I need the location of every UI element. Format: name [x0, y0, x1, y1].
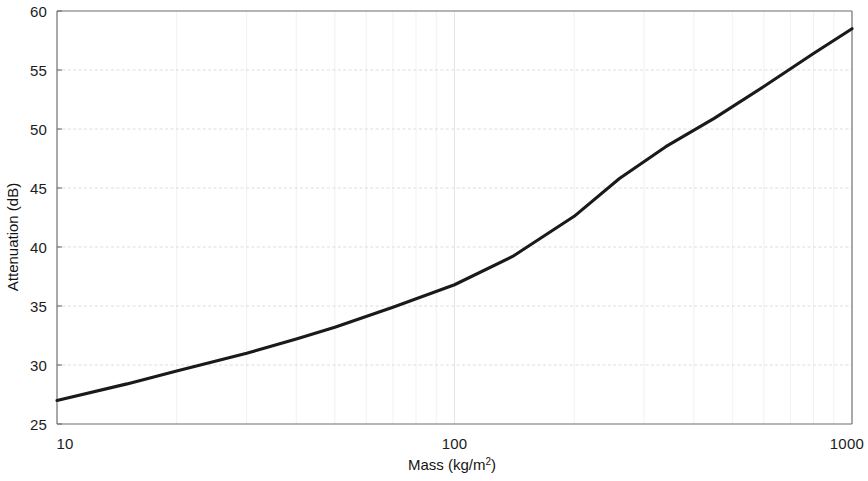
y-tick-label: 60	[30, 3, 47, 20]
y-tick-label: 50	[30, 121, 47, 138]
x-tick-label: 100	[442, 435, 468, 452]
y-tick-label: 45	[30, 180, 47, 197]
x-axis-title-close: )	[491, 456, 496, 473]
chart-background	[0, 0, 868, 481]
y-tick-label: 40	[30, 239, 47, 256]
x-axis-title-main: Mass (kg/m	[408, 456, 486, 473]
y-axis-title: Attenuation (dB)	[4, 183, 21, 291]
x-tick-label: 1000	[830, 435, 864, 452]
y-tick-label: 55	[30, 62, 47, 79]
x-tick-label: 10	[56, 435, 73, 452]
y-tick-label: 30	[30, 357, 47, 374]
y-tick-label: 35	[30, 298, 47, 315]
x-axis-title: Mass (kg/m2)	[408, 456, 496, 473]
y-tick-label: 25	[30, 416, 47, 433]
attenuation-vs-mass-chart: 6055504540353025 101001000 Attenuation (…	[0, 0, 868, 481]
chart-container: 6055504540353025 101001000 Attenuation (…	[0, 0, 868, 481]
